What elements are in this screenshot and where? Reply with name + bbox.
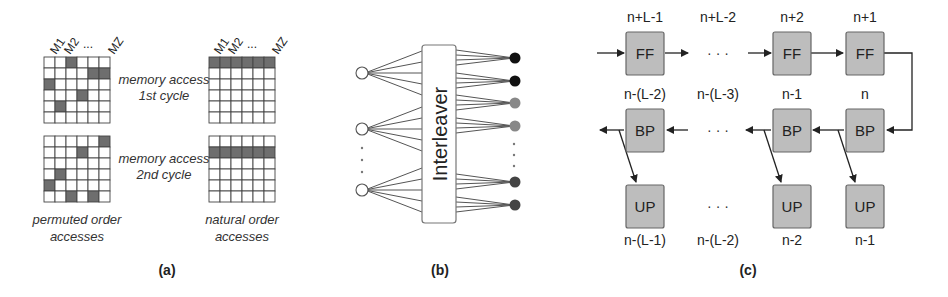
grid-cell: [242, 112, 253, 123]
header-m2: M2: [225, 35, 246, 57]
grid-cell: [264, 158, 275, 169]
input-node: [356, 67, 368, 79]
grid-cell: [253, 136, 264, 147]
stage-label: n-(L-1): [624, 232, 666, 248]
grid-cell: [209, 158, 220, 169]
box-label: FF: [856, 45, 874, 62]
grid-cell: [88, 101, 99, 112]
grid-cell-shaded: [66, 57, 77, 68]
grid-cell: [88, 112, 99, 123]
panel-a: M1 M2 ... MZ M1 M2 ... MZ memory access …: [32, 34, 291, 278]
grid-cell: [231, 136, 242, 147]
grid-cell: [220, 158, 231, 169]
grid-cell: [66, 136, 77, 147]
grid-cell: [209, 191, 220, 202]
grid-cell: [77, 158, 88, 169]
grid-cell: [77, 57, 88, 68]
grid-natural-1st: [209, 57, 275, 123]
grid-cell: [209, 112, 220, 123]
grid-cell: [77, 191, 88, 202]
grid-cell: [253, 90, 264, 101]
grid-cell: [99, 147, 110, 158]
grid-cell: [55, 68, 66, 79]
grid-cell: [44, 57, 55, 68]
grid-cell: [242, 68, 253, 79]
grid-cell: [231, 101, 242, 112]
stage-label: n-(L-3): [697, 86, 739, 102]
grid-cell: [44, 169, 55, 180]
right-ellipsis: [513, 143, 515, 167]
grid-cell: [253, 191, 264, 202]
up-ellipsis: · · ·: [707, 198, 729, 214]
grid-cell: [77, 79, 88, 90]
grid-cell-shaded: [242, 147, 253, 158]
input-node: [356, 123, 368, 135]
grid-cell: [44, 136, 55, 147]
grid-cell: [99, 180, 110, 191]
grid-cell: [88, 136, 99, 147]
caption-c: (c): [739, 262, 756, 278]
grid-cell: [55, 90, 66, 101]
label-permuted-order: permuted order: [32, 212, 123, 227]
grid-cell: [242, 90, 253, 101]
stage-label: n-2: [782, 232, 802, 248]
grid-cell: [220, 112, 231, 123]
grid-cell-shaded: [264, 147, 275, 158]
grid-cell: [253, 169, 264, 180]
grid-cell: [99, 191, 110, 202]
grid-cell: [44, 68, 55, 79]
grid-cell: [264, 191, 275, 202]
grid-cell: [99, 101, 110, 112]
output-node: [510, 76, 521, 87]
caption-a: (a): [158, 262, 175, 278]
output-node: [510, 98, 521, 109]
grid-cell: [231, 90, 242, 101]
grid-cell: [66, 158, 77, 169]
grid-cell: [88, 158, 99, 169]
interleaver-label: Interleaver: [429, 86, 451, 181]
grid-cell-shaded: [220, 57, 231, 68]
grid-cell-shaded: [231, 147, 242, 158]
output-node: [510, 53, 521, 64]
grid-cell: [88, 169, 99, 180]
grid-cell: [88, 79, 99, 90]
grid-cell: [66, 79, 77, 90]
box-label: BP: [782, 122, 802, 139]
grid-cell: [253, 158, 264, 169]
grid-cell: [88, 90, 99, 101]
box-label: FF: [636, 45, 654, 62]
grid-cell-shaded: [99, 68, 110, 79]
label-2nd-cycle: 2nd cycle: [136, 167, 192, 182]
grid-cell: [44, 147, 55, 158]
input-node: [356, 184, 368, 196]
header-mz: MZ: [269, 34, 290, 56]
grid-cell: [209, 101, 220, 112]
grid-cell: [231, 180, 242, 191]
grid-cell: [99, 90, 110, 101]
grid-cell: [220, 90, 231, 101]
grid-cell: [77, 112, 88, 123]
panel-c-ellipses: · · · · · · · · ·: [707, 45, 729, 214]
box-label: FF: [783, 45, 801, 62]
grid-cell: [220, 101, 231, 112]
panel-c-boxes: FFFFFFn+L-1n+L-2n+2n+1BPBPBPn-(L-2)n-(L-…: [624, 9, 884, 248]
grid-cell: [209, 180, 220, 191]
grid-cell: [264, 169, 275, 180]
grid-cell: [77, 169, 88, 180]
grid-cell: [253, 68, 264, 79]
box-label: BP: [855, 122, 875, 139]
stage-label: n-(L-2): [697, 232, 739, 248]
grid-cell: [209, 79, 220, 90]
grid-cell: [77, 136, 88, 147]
grid-cell: [231, 79, 242, 90]
grid-cell: [242, 79, 253, 90]
grid-cell: [99, 79, 110, 90]
stage-label: n: [861, 86, 869, 102]
grid-cell: [44, 112, 55, 123]
grid-cell: [264, 90, 275, 101]
grid-cell: [88, 147, 99, 158]
header-mz: MZ: [105, 34, 126, 56]
grid-cell: [231, 191, 242, 202]
grid-cell: [231, 158, 242, 169]
ff-ellipsis: · · ·: [707, 45, 729, 61]
